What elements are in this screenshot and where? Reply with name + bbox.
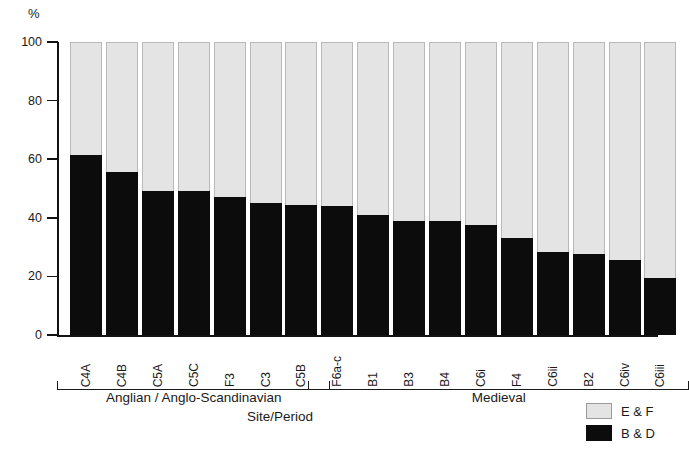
bar-F4 <box>501 42 533 335</box>
legend-item-ef: E & F <box>586 400 655 422</box>
x-axis-line <box>57 335 658 337</box>
bar-C6iv <box>609 42 641 335</box>
y-tick-label-60: 60 <box>0 152 42 166</box>
bar-segment-bd-C3 <box>250 203 282 335</box>
bar-segment-bd-C5A <box>142 191 174 335</box>
bar-C4A <box>70 42 102 335</box>
y-tick-label-100: 100 <box>0 35 42 49</box>
light-gray-swatch-icon <box>586 403 612 419</box>
bar-segment-bd-B1 <box>357 215 389 335</box>
bar-segment-bd-C6i <box>465 225 497 335</box>
y-tick-label-20: 20 <box>0 269 42 283</box>
y-tick-40 <box>47 217 58 219</box>
y-tick-20 <box>47 276 58 278</box>
y-tick-80 <box>47 100 58 102</box>
black-swatch-icon <box>586 425 612 441</box>
bar-F6a-c <box>321 42 353 335</box>
bar-segment-bd-F4 <box>501 238 533 335</box>
bar-C6i <box>465 42 497 335</box>
bar-segment-bd-F3 <box>214 197 246 335</box>
legend-label-ef: E & F <box>621 404 654 419</box>
bar-segment-bd-C5C <box>178 191 210 335</box>
bar-B1 <box>357 42 389 335</box>
y-tick-label-40: 40 <box>0 211 42 225</box>
bar-B3 <box>393 42 425 335</box>
plot-area <box>70 42 658 335</box>
group-label-0: Anglian / Anglo-Scandinavian <box>57 390 330 405</box>
bar-C5A <box>142 42 174 335</box>
y-axis-line <box>57 42 59 336</box>
bar-C3 <box>250 42 282 335</box>
bar-segment-bd-C6iv <box>609 260 641 335</box>
group-bracket-1 <box>308 381 689 390</box>
bar-segment-bd-B3 <box>393 221 425 335</box>
bar-C5B <box>285 42 317 335</box>
bar-B2 <box>573 42 605 335</box>
bar-segment-bd-C6iii <box>644 278 676 335</box>
bar-C4B <box>106 42 138 335</box>
bar-segment-bd-F6a-c <box>321 206 353 335</box>
bar-segment-bd-C5B <box>285 205 317 335</box>
y-tick-label-0: 0 <box>0 328 42 342</box>
bar-C6iii <box>644 42 676 335</box>
bar-segment-bd-C4B <box>106 172 138 335</box>
bar-F3 <box>214 42 246 335</box>
legend: E & F B & D <box>586 400 655 444</box>
y-tick-100 <box>47 41 58 43</box>
bar-C6ii <box>537 42 569 335</box>
y-tick-60 <box>47 158 58 160</box>
bar-segment-bd-C6ii <box>537 252 569 336</box>
y-tick-0 <box>47 334 58 336</box>
y-axis-unit-label: % <box>28 6 40 21</box>
bar-segment-bd-B4 <box>429 221 461 335</box>
bar-segment-bd-C4A <box>70 155 102 335</box>
bar-segment-bd-B2 <box>573 254 605 335</box>
bar-B4 <box>429 42 461 335</box>
legend-label-bd: B & D <box>621 426 655 441</box>
group-bracket-0 <box>57 381 330 390</box>
legend-item-bd: B & D <box>586 422 655 444</box>
x-axis-title: Site/Period <box>0 409 560 424</box>
bar-C5C <box>178 42 210 335</box>
y-tick-label-80: 80 <box>0 94 42 108</box>
